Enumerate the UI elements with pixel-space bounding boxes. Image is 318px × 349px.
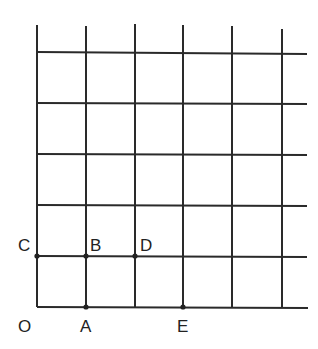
label-b: B bbox=[90, 236, 101, 255]
horizontal-line-4 bbox=[37, 103, 307, 104]
label-a: A bbox=[80, 317, 92, 336]
point-a-dot bbox=[83, 304, 88, 309]
point-labels: O A E C B D bbox=[18, 236, 188, 336]
horizontal-line-3 bbox=[37, 154, 307, 155]
horizontal-line-1 bbox=[37, 256, 307, 257]
grid-lines bbox=[37, 24, 308, 308]
horizontal-line-0 bbox=[37, 307, 308, 308]
label-e: E bbox=[177, 317, 188, 336]
point-dots bbox=[34, 253, 185, 309]
point-b-dot bbox=[83, 253, 88, 258]
horizontal-line-2 bbox=[37, 205, 307, 206]
label-o: O bbox=[18, 317, 31, 336]
label-d: D bbox=[140, 236, 152, 255]
grid-diagram: O A E C B D bbox=[0, 0, 318, 349]
label-c: C bbox=[18, 236, 30, 255]
point-d-dot bbox=[132, 253, 137, 258]
horizontal-line-5 bbox=[37, 52, 307, 54]
point-e-dot bbox=[180, 304, 185, 309]
point-c-dot bbox=[34, 253, 39, 258]
